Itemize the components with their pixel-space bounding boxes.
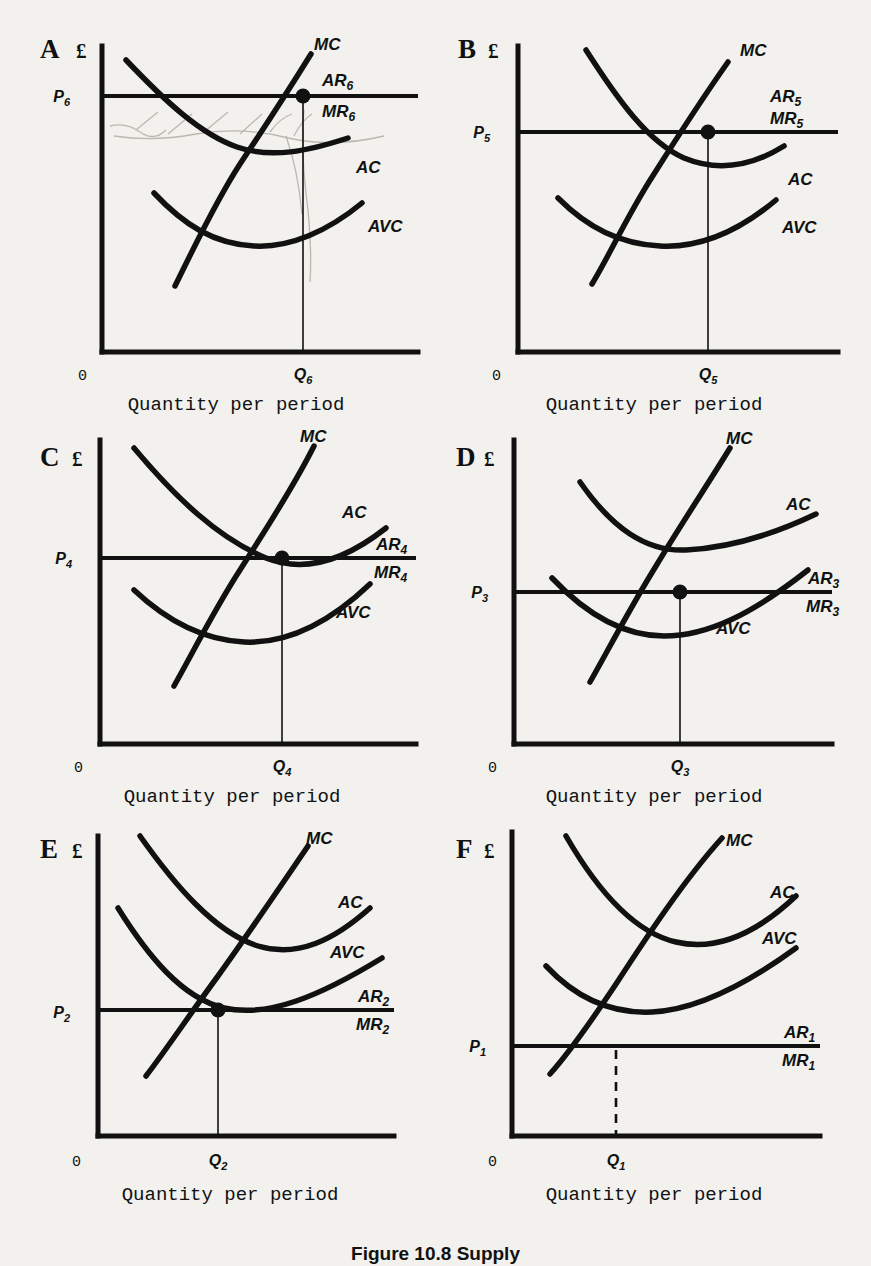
origin-label: 0 [74,760,83,777]
quantity-axis-label: Q6 [294,366,313,386]
x-axis-title: Quantity per period [546,394,763,416]
curve-label-mc: MC [740,41,767,60]
panel-d: D £ MC AC AVC P3 AR3 MR3 0 Q3 Quantity p… [440,418,860,818]
label-mr: MR4 [374,563,407,585]
panel-c: C £ MC AC AVC P4 AR4 MR4 0 Q4 Quantity p… [18,418,438,818]
curve-label-mc: MC [726,429,753,448]
label-mr: MR1 [782,1051,815,1073]
origin-label: 0 [488,1154,497,1171]
panel-e: E £ MC AC AVC P2 AR2 MR2 0 Q2 Quantity p… [18,818,438,1218]
curve-avc [546,948,796,1012]
curve-ac [140,836,370,950]
x-axis-title: Quantity per period [128,394,345,416]
curve-label-ac: AC [785,495,811,514]
figure-caption: Figure 10.8 Supply [0,1243,871,1265]
quantity-axis-label: Q4 [273,758,292,778]
label-ar: AR3 [807,569,840,591]
price-axis-label: P1 [469,1038,486,1058]
equilibrium-dot [275,551,290,566]
curve-avc [558,198,776,246]
curve-label-ac: AC [787,170,813,189]
curve-mc [175,54,311,286]
curve-mc [550,838,722,1074]
curve-ac [586,50,784,166]
curve-label-ac: AC [337,893,363,912]
curve-avc [134,584,370,642]
x-axis-title: Quantity per period [122,1184,339,1206]
price-axis-label: P3 [471,584,488,604]
origin-label: 0 [492,368,501,385]
curve-label-avc: AVC [367,217,403,236]
panel-letter: E [40,834,58,864]
label-ar: AR4 [375,535,408,557]
origin-label: 0 [78,368,87,385]
curve-mc [146,846,308,1076]
curve-label-mc: MC [300,427,327,446]
curve-label-avc: AVC [335,603,371,622]
quantity-axis-label: Q5 [699,366,718,386]
equilibrium-dot [296,89,311,104]
curve-label-ac: AC [341,503,367,522]
label-mr: MR6 [322,102,355,124]
price-axis-label: P4 [55,550,72,570]
panel-b: B £ MC AC AVC P5 AR5 MR5 0 Q5 Quantity p… [440,18,860,418]
curve-label-ac: AC [769,883,795,902]
currency-symbol: £ [72,447,83,471]
label-mr: MR3 [806,597,839,619]
figure-supply-panels: A £ MC AC [0,0,871,1266]
curve-mc [590,448,730,682]
panel-letter: B [458,34,476,64]
pencil-scribbles [110,110,384,282]
curve-label-mc: MC [314,35,341,54]
curve-label-mc: MC [726,831,753,850]
curve-label-avc: AVC [715,619,751,638]
x-axis-title: Quantity per period [124,786,341,808]
panel-letter: F [456,834,473,864]
origin-label: 0 [488,760,497,777]
price-axis-label: P5 [473,124,491,144]
equilibrium-dot [673,585,688,600]
curve-label-mc: MC [306,829,333,848]
currency-symbol: £ [484,839,495,863]
quantity-axis-label: Q2 [209,1152,228,1172]
currency-symbol: £ [72,839,83,863]
curve-ac [580,482,816,550]
panel-f: F £ MC AC AVC P1 AR1 MR1 0 Q1 Quantity p… [440,818,860,1218]
curve-avc [154,193,362,246]
panel-letter: D [456,442,476,472]
equilibrium-dot [701,125,716,140]
label-ar: AR6 [321,71,354,93]
x-axis-title: Quantity per period [546,786,763,808]
panel-letter: C [40,442,60,472]
curve-label-avc: AVC [329,943,365,962]
origin-label: 0 [72,1154,81,1171]
price-axis-label: P6 [53,88,71,108]
x-axis-title: Quantity per period [546,1184,763,1206]
label-mr: MR2 [356,1015,389,1037]
panel-a: A £ MC AC [18,18,438,418]
curve-label-avc: AVC [781,218,817,237]
curve-label-avc: AVC [761,929,797,948]
price-axis-label: P2 [53,1004,70,1024]
currency-symbol: £ [76,39,87,63]
label-ar: AR5 [769,87,802,109]
currency-symbol: £ [484,447,495,471]
equilibrium-dot [211,1003,226,1018]
quantity-axis-label: Q3 [671,758,690,778]
label-mr: MR5 [770,109,803,131]
label-ar: AR2 [357,987,390,1009]
panel-letter: A [40,34,60,64]
quantity-axis-label: Q1 [607,1152,626,1172]
label-ar: AR1 [783,1023,816,1045]
currency-symbol: £ [488,39,499,63]
curve-label-ac: AC [355,158,381,177]
